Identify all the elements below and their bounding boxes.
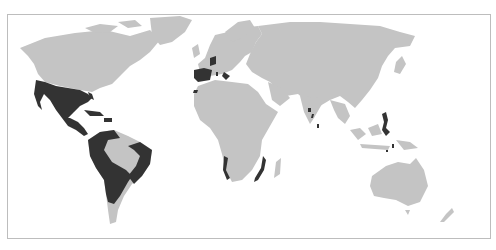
british-isles [192, 44, 200, 58]
southeast-asia [330, 100, 350, 124]
spain [194, 68, 212, 82]
sardinia [216, 72, 218, 76]
australia [370, 158, 428, 206]
arctic-islands [85, 20, 142, 33]
new-zealand [440, 208, 454, 222]
japan [394, 56, 406, 74]
caribbean [84, 110, 112, 122]
madagascar [274, 158, 281, 178]
ceylon [317, 124, 319, 128]
africa [194, 80, 278, 182]
world-map [0, 0, 496, 250]
land-layer [20, 16, 454, 224]
philippines [382, 112, 390, 136]
central-america [62, 118, 88, 136]
tasmania [405, 210, 410, 215]
